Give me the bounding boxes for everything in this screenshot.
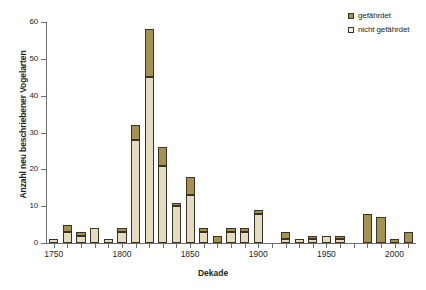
bar-segment-nicht-gefaehrdet	[295, 239, 304, 243]
x-tick-mark	[381, 244, 382, 248]
bar-segment-gefaehrdet	[363, 214, 372, 243]
bar-segment-gefaehrdet	[76, 232, 85, 236]
bar-segment-nicht-gefaehrdet	[117, 232, 126, 243]
y-tick-label: 50	[8, 55, 38, 63]
bird-species-per-decade-chart: Anzahl neu beschriebener Vogelarten 0102…	[0, 0, 426, 290]
bar-1930	[295, 22, 304, 243]
bar-segment-gefaehrdet	[335, 236, 344, 240]
x-tick-label: 1900	[238, 250, 278, 259]
x-tick-mark	[408, 244, 409, 248]
x-tick-label: 2000	[375, 250, 415, 259]
bar-segment-nicht-gefaehrdet	[254, 214, 263, 243]
x-tick-mark	[217, 244, 218, 248]
bar-segment-gefaehrdet	[390, 239, 399, 243]
bar-1960	[335, 22, 344, 243]
bar-1790	[104, 22, 113, 243]
bar-1890	[240, 22, 249, 243]
legend-swatch-icon	[348, 27, 354, 33]
bar-segment-nicht-gefaehrdet	[145, 77, 154, 243]
bar-segment-nicht-gefaehrdet	[158, 166, 167, 243]
bar-1900	[254, 22, 263, 243]
x-tick-mark	[163, 244, 164, 248]
x-tick-mark	[176, 244, 177, 248]
y-tick-mark	[41, 169, 46, 170]
bar-2000	[390, 22, 399, 243]
bar-segment-nicht-gefaehrdet	[131, 140, 140, 243]
x-tick-mark	[245, 244, 246, 248]
bar-segment-nicht-gefaehrdet	[90, 228, 99, 243]
bar-2010	[404, 22, 413, 243]
x-tick-mark	[367, 244, 368, 248]
legend-item-nicht-gefaehrdet: nicht gefährdet	[348, 24, 409, 35]
bar-1820	[145, 22, 154, 243]
bar-segment-nicht-gefaehrdet	[104, 239, 113, 243]
bar-1870	[213, 22, 222, 243]
x-tick-mark	[286, 244, 287, 248]
x-tick-mark	[108, 244, 109, 248]
y-tick-label: 20	[8, 165, 38, 173]
y-tick-label: 60	[8, 18, 38, 26]
x-tick-mark	[340, 244, 341, 248]
x-tick-mark	[122, 244, 123, 248]
bar-1880	[226, 22, 235, 243]
x-tick-label: 1850	[170, 250, 210, 259]
bar-segment-gefaehrdet	[404, 232, 413, 243]
x-axis-title: Dekade	[0, 268, 426, 278]
bar-1950	[322, 22, 331, 243]
bar-segment-gefaehrdet	[158, 147, 167, 165]
legend-label: gefährdet	[358, 10, 391, 21]
y-tick-label: 10	[8, 202, 38, 210]
bar-segment-gefaehrdet	[117, 228, 126, 232]
bar-1860	[199, 22, 208, 243]
bar-1920	[281, 22, 290, 243]
bar-1760	[63, 22, 72, 243]
bar-segment-nicht-gefaehrdet	[322, 236, 331, 243]
x-tick-label: 1950	[306, 250, 346, 259]
x-tick-mark	[136, 244, 137, 248]
bar-1990	[376, 22, 385, 243]
x-tick-mark	[395, 244, 396, 248]
bar-segment-nicht-gefaehrdet	[240, 232, 249, 243]
bar-1840	[172, 22, 181, 243]
x-tick-label: 1800	[102, 250, 142, 259]
bar-1810	[131, 22, 140, 243]
bar-segment-gefaehrdet	[213, 236, 222, 243]
bar-segment-gefaehrdet	[240, 228, 249, 232]
bar-1780	[90, 22, 99, 243]
bar-segment-nicht-gefaehrdet	[308, 239, 317, 243]
x-tick-mark	[258, 244, 259, 248]
bar-1800	[117, 22, 126, 243]
x-tick-mark	[190, 244, 191, 248]
bar-segment-nicht-gefaehrdet	[63, 232, 72, 243]
bar-1750	[49, 22, 58, 243]
bar-1980	[363, 22, 372, 243]
y-tick-label: 0	[8, 239, 38, 247]
y-tick-label: 40	[8, 92, 38, 100]
bar-segment-gefaehrdet	[186, 177, 195, 195]
y-tick-mark	[41, 96, 46, 97]
bar-segment-gefaehrdet	[145, 29, 154, 77]
bar-segment-gefaehrdet	[226, 228, 235, 232]
bar-segment-gefaehrdet	[281, 232, 290, 239]
bar-segment-nicht-gefaehrdet	[226, 232, 235, 243]
x-tick-mark	[326, 244, 327, 248]
bar-segment-nicht-gefaehrdet	[49, 239, 58, 243]
x-tick-mark	[149, 244, 150, 248]
y-tick-mark	[41, 22, 46, 23]
y-tick-label: 30	[8, 129, 38, 137]
x-tick-mark	[54, 244, 55, 248]
x-tick-label: 1750	[34, 250, 74, 259]
x-tick-mark	[354, 244, 355, 248]
bar-segment-nicht-gefaehrdet	[335, 239, 344, 243]
y-tick-mark	[41, 243, 46, 244]
legend-label: nicht gefährdet	[358, 24, 409, 35]
bar-segment-gefaehrdet	[376, 217, 385, 243]
bar-1850	[186, 22, 195, 243]
y-tick-mark	[41, 206, 46, 207]
y-tick-mark	[41, 59, 46, 60]
plot-area	[47, 22, 415, 243]
x-tick-mark	[67, 244, 68, 248]
bar-1940	[308, 22, 317, 243]
legend-swatch-icon	[348, 13, 354, 19]
bar-segment-gefaehrdet	[172, 203, 181, 207]
